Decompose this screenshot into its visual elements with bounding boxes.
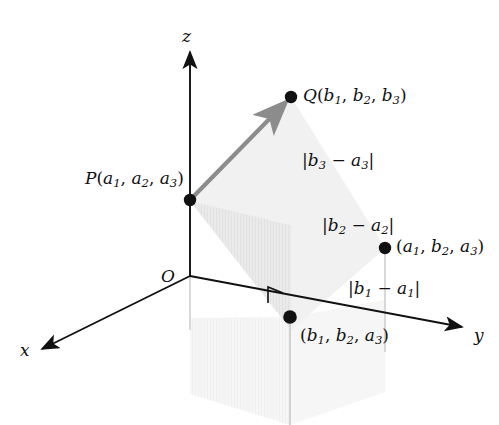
point-b1b2a3-c2: b <box>336 325 347 345</box>
point-a1b2a3-paren-close: ) <box>478 236 485 256</box>
seg1-s1: 2 <box>339 223 346 237</box>
seg1-v2: a <box>371 215 381 235</box>
point-b1b2a3-s3: 3 <box>375 333 382 347</box>
seg2-minus: − <box>372 278 397 298</box>
point-Q-paren-close: ) <box>400 85 407 105</box>
point-P-c1: a <box>103 168 113 188</box>
point-P-c3: a <box>160 168 170 188</box>
seg0-v2: a <box>351 150 361 170</box>
point-Q-s2: 2 <box>364 93 371 107</box>
origin-label-O: O <box>161 268 175 285</box>
segment-label-b3-a3: |b3 − a3| <box>302 152 374 169</box>
point-Q-c2: b <box>353 85 364 105</box>
point-P-prefix: P <box>85 168 96 188</box>
point-a1b2a3-c1: a <box>403 236 413 256</box>
axis-label-z: z <box>182 28 191 45</box>
point-a1b2a3-comma2: , <box>449 236 460 256</box>
point-b1b2a3-label: (b1, b2, a3) <box>300 327 389 344</box>
seg0-s2: 3 <box>361 158 368 172</box>
seg2-v2: a <box>397 278 407 298</box>
seg2-bar-close: | <box>415 278 421 298</box>
seg1-bar-close: | <box>389 215 395 235</box>
shade-lower-prism-right <box>290 300 385 425</box>
seg2-v1: b <box>354 278 365 298</box>
point-Q-label: Q(b1, b2, b3) <box>303 87 407 104</box>
seg0-v1: b <box>308 150 319 170</box>
point-a1b2a3-c3: a <box>460 236 470 256</box>
point-a1b2a3-s3: 3 <box>470 244 477 258</box>
point-b1b2a3-comma1: , <box>325 325 336 345</box>
point-P-comma2: , <box>149 168 160 188</box>
point-Q-s3: 3 <box>393 93 400 107</box>
point-a1b2a3-label: (a1, b2, a3) <box>396 238 484 255</box>
point-b1b2a3-s2: 2 <box>347 333 354 347</box>
axis-label-x: x <box>20 342 30 359</box>
point-b1b2a3-paren-open: ( <box>300 325 307 345</box>
point-Q-paren-open: ( <box>317 85 324 105</box>
point-a1b2a3-s2: 2 <box>442 244 449 258</box>
point-Q-dot <box>285 91 297 103</box>
point-Q-s1: 1 <box>334 93 341 107</box>
point-a1b2a3-s1: 1 <box>413 244 420 258</box>
shade-lower-prism <box>190 317 290 425</box>
point-P-dot <box>184 194 196 206</box>
point-P-s1: 1 <box>113 176 120 190</box>
point-a1b2a3-paren-open: ( <box>396 236 403 256</box>
segment-label-b1-a1: |b1 − a1| <box>348 280 420 297</box>
point-P-c2: a <box>131 168 141 188</box>
seg0-minus: − <box>326 150 351 170</box>
point-P-s2: 2 <box>142 176 149 190</box>
point-P-comma1: , <box>121 168 132 188</box>
point-Q-comma2: , <box>371 85 382 105</box>
seg1-minus: − <box>346 215 371 235</box>
point-a1b2a3-comma1: , <box>420 236 431 256</box>
seg1-s2: 2 <box>381 223 388 237</box>
point-b1b2a3-paren-close: ) <box>382 325 389 345</box>
segment-label-b2-a2: |b2 − a2| <box>322 217 394 234</box>
point-Q-comma1: , <box>342 85 353 105</box>
point-b1b2a3-dot <box>283 310 297 324</box>
seg0-bar-close: | <box>369 150 375 170</box>
point-Q-prefix: Q <box>303 85 317 105</box>
seg2-s2: 1 <box>407 286 414 300</box>
point-Q-c3: b <box>382 85 393 105</box>
point-b1b2a3-c1: b <box>307 325 318 345</box>
point-P-label: P(a1, a2, a3) <box>85 170 184 187</box>
point-a1b2a3-c2: b <box>431 236 442 256</box>
figure-container: z y x O P(a1, a2, a3) Q(b1, b2, b3) (a1,… <box>0 0 499 425</box>
point-a1b2a3-dot <box>379 242 391 254</box>
seg0-s1: 3 <box>319 158 326 172</box>
point-P-paren-close: ) <box>177 168 184 188</box>
x-axis-line <box>42 276 190 349</box>
point-Q-c1: b <box>324 85 335 105</box>
point-b1b2a3-s1: 1 <box>318 333 325 347</box>
point-b1b2a3-comma2: , <box>354 325 365 345</box>
point-P-s3: 3 <box>170 176 177 190</box>
point-b1b2a3-c3: a <box>365 325 375 345</box>
seg2-s1: 1 <box>365 286 372 300</box>
axis-label-y: y <box>474 327 484 344</box>
diagram-canvas <box>0 0 499 425</box>
seg1-v1: b <box>328 215 339 235</box>
